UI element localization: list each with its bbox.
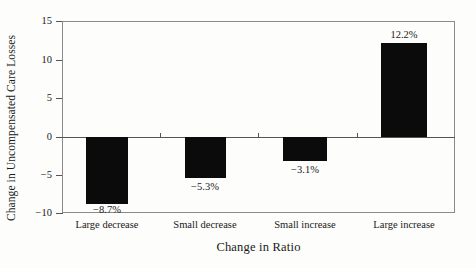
y-tick-label-10: 10	[12, 55, 52, 65]
y-axis-title: Change in Uncompensated Care Losses	[0, 0, 22, 262]
x-tick-mark-2	[258, 133, 259, 138]
x-tick-mark-1	[160, 133, 161, 138]
bar-small-increase	[283, 137, 327, 161]
value-label-small-increase: −3.1%	[260, 164, 350, 175]
x-axis-title: Change in Ratio	[62, 240, 455, 255]
value-label-large-increase: 12.2%	[359, 29, 449, 40]
y-tick-label-5: 5	[12, 93, 52, 103]
y-tick-label-neg10: −10	[12, 208, 52, 218]
bar-large-increase	[381, 43, 427, 137]
y-tick-label-15: 15	[12, 16, 52, 26]
value-label-large-decrease: −8.7%	[62, 204, 152, 215]
x-category-label-large-increase: Large increase	[344, 219, 464, 231]
chart-figure: Change in Uncompensated Care Losses 15 1…	[0, 0, 476, 268]
y-tick-label-neg5: −5	[12, 170, 52, 180]
bar-small-decrease	[185, 137, 226, 178]
bar-large-decrease	[86, 137, 128, 204]
x-tick-mark-3	[357, 133, 358, 138]
value-label-small-decrease: −5.3%	[160, 181, 250, 192]
y-tick-label-0: 0	[12, 132, 52, 142]
